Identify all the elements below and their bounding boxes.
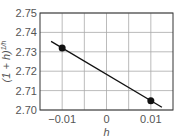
y-tick-label: 2.75 [16,7,37,19]
x-axis-label: h [103,126,109,138]
chart: 2.702.712.722.732.742.75−0.0100.01h(1 + … [0,0,179,140]
data-point [147,97,154,104]
y-tick-label: 2.72 [16,65,37,77]
x-tick-label: −0.01 [48,113,76,125]
y-tick-label: 2.74 [16,26,37,38]
x-tick-label: 0 [103,113,109,125]
x-tick-label: 0.01 [140,113,161,125]
y-axis-label: (1 + h)1/h [0,40,12,82]
y-tick-label: 2.71 [16,85,37,97]
data-point [59,44,66,51]
y-tick-label: 2.70 [16,104,37,116]
y-tick-label: 2.73 [16,46,37,58]
